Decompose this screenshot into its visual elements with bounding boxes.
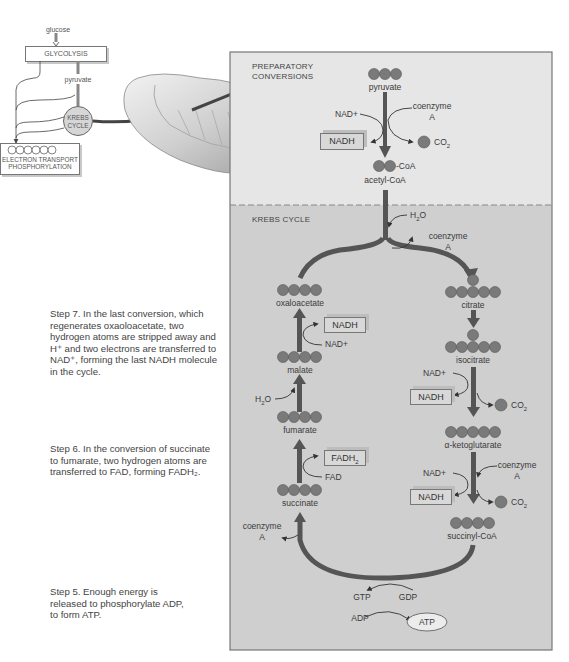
coenzyme-a-label-prep: coenzyme A [413,102,452,121]
coenzyme-a-text: A [498,472,537,481]
co2-molecule-prep [418,136,430,148]
h2o-label-top: H2O [410,211,426,222]
pyruvate-label: pyruvate [369,83,402,92]
co2-text: CO [434,137,447,147]
nadh-box-akg: NADH [410,489,452,505]
adp-label: ADP [351,614,368,623]
gdp-label: GDP [399,593,417,602]
fadh2-box: FADH2 [324,450,366,466]
coenzyme-text: coenzyme [243,522,282,531]
gtp-label: GTP [353,593,370,602]
step6-description: Step 6. In the conversion of succinate t… [50,443,220,478]
o-text: O [264,394,271,404]
etp-carrier-circles [8,146,56,154]
nad-plus-label-step7: NAD+ [325,340,348,349]
krebs-cycle-title: KREBS CYCLE [252,215,310,224]
alpha-ketoglutarate-molecule [446,427,501,438]
nadh-text: NADH [418,392,444,402]
oxaloacetate-label: oxaloacetate [276,299,324,308]
citrate-label: citrate [461,301,484,310]
coenzyme-text: coenzyme [429,232,468,241]
fad-label: FAD [325,473,342,482]
nadh-box-iso: NADH [410,389,452,405]
fumarate-label: fumarate [283,426,317,435]
succinyl-coa-label: succinyl-CoA [447,532,497,541]
nadh-box-step7: NADH [324,317,366,333]
coenzyme-a-label-right: coenzyme A [498,461,537,480]
co2-label-iso: CO2 [511,401,527,412]
fadh2-sub: 2 [355,459,358,465]
co2-molecule-akg [495,496,507,508]
nad-plus-label-iso: NAD+ [423,369,446,378]
nadh-text: NADH [329,136,355,146]
malate-label: malate [287,366,313,375]
co2-text: CO [511,497,524,507]
krebs-panel [230,205,552,650]
isocitrate-label: isocitrate [456,356,490,365]
nadh-text: NADH [332,320,358,330]
nad-plus-label-akg: NAD+ [423,469,446,478]
coenzyme-a-label-left: coenzyme A [243,522,282,541]
co2-sub: 2 [447,143,450,149]
overview-arrows [14,33,78,143]
coenzyme-a-label-top: coenzyme A [429,232,468,251]
co2-label-akg: CO2 [511,498,527,509]
step5-description: Step 5. Enough energy is released to pho… [50,586,185,621]
atp-label: ATP [419,618,435,627]
co2-sub: 2 [524,406,527,412]
pyruvate-molecule [369,69,402,80]
coenzyme-a-text: A [243,533,282,542]
coa-suffix-label: -CoA [396,162,415,171]
step7-description: Step 7. In the last conversion, which re… [50,308,220,378]
co2-text: CO [511,400,524,410]
alpha-ketoglutarate-label: α-ketoglutarate [445,441,502,450]
co2-molecule-isocitrate [495,399,507,411]
fadh-text: FADH [331,453,355,463]
o-text: O [419,210,426,220]
preparatory-title-line2: CONVERSIONS [252,72,313,81]
h2o-label-left: H2O [255,395,271,406]
co2-sub: 2 [524,503,527,509]
coenzyme-text: coenzyme [498,461,537,470]
succinate-label: succinate [282,499,318,508]
nadh-box-prep: NADH [320,133,364,150]
coenzyme-a-text: A [413,113,452,122]
coenzyme-text: coenzyme [413,102,452,111]
acetyl-coa-label: acetyl-CoA [364,176,406,185]
coenzyme-a-text: A [429,243,468,252]
co2-label-prep: CO2 [434,138,450,149]
nadh-text: NADH [418,492,444,502]
preparatory-title-line1: PREPARATORY [252,62,313,71]
nad-plus-label-prep: NAD+ [335,110,358,119]
